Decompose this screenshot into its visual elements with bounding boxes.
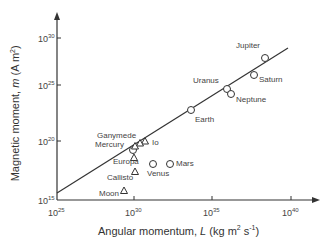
y-axis-title: Magnetic moment, m (A m2) [9,38,22,188]
marker-saturn [251,72,258,79]
marker-venus [150,161,157,168]
label-neptune: Neptune [236,96,266,104]
label-saturn: Saturn [259,76,283,84]
x-axis-arrow-icon [312,197,320,203]
label-europa: Europa [113,158,139,166]
y-axis-arrow-icon [54,12,60,20]
marker-mars [167,161,174,168]
y-tick-30: 1030 [38,33,55,44]
y-tick-15: 1015 [38,195,55,206]
label-ganymede: Ganymede [97,132,136,140]
label-earth: Earth [195,116,214,124]
x-tick-40: 1040 [282,207,299,218]
label-callisto: Callisto [107,174,133,182]
label-io: Io [152,139,159,147]
fit-line [57,48,288,193]
label-mercury: Mercury [95,141,124,149]
x-tick-30: 1030 [125,207,142,218]
marker-io [142,138,149,145]
label-jupiter: Jupiter [236,42,260,50]
x-tick-25: 1025 [48,207,65,218]
x-tick-35: 1035 [203,207,220,218]
y-tick-20: 1020 [38,136,55,147]
marker-moon [121,187,128,194]
marker-neptune [228,91,235,98]
label-mars: Mars [176,160,194,168]
marker-jupiter [262,55,269,62]
planet-markers [130,55,269,168]
label-venus: Venus [147,170,169,178]
label-moon: Moon [99,190,119,198]
y-tick-25: 1025 [38,80,55,91]
axes [57,18,314,200]
marker-earth [188,107,195,114]
label-uranus: Uranus [193,77,219,85]
x-axis-title: Angular momentum, L (kg m2 s-1) [98,224,259,237]
